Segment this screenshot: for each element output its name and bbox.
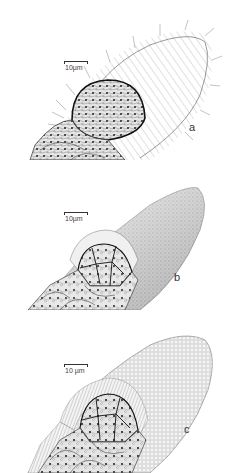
panel-a-illustration <box>0 0 233 160</box>
panel-a: 10µm a <box>0 0 233 160</box>
panel-label-a: a <box>189 121 195 133</box>
panel-label-b: b <box>174 271 180 283</box>
panel-b: 10µm b <box>0 160 233 310</box>
panel-c-illustration <box>0 310 233 473</box>
scale-bar-a: 10µm <box>64 61 88 72</box>
panel-c: 10 µm c <box>0 310 233 473</box>
panel-b-illustration <box>0 160 233 310</box>
scale-bar-c: 10 µm <box>64 364 88 375</box>
scale-bar-b: 10µm <box>64 212 88 223</box>
panel-label-c: c <box>184 423 190 435</box>
